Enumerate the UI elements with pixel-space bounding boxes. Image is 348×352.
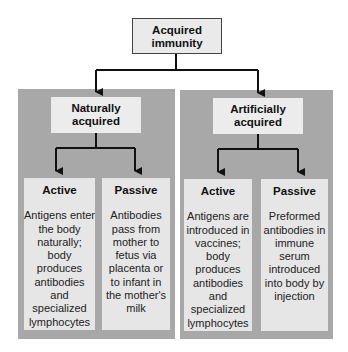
artificially-acquired-box: Artificially acquired: [213, 98, 303, 134]
text-line: milk: [126, 302, 146, 314]
text-line: vaccines;: [195, 237, 241, 249]
naturally-acquired-box: Naturally acquired: [51, 97, 141, 133]
root-label-line1: Acquired: [152, 24, 202, 36]
text-line: injection: [274, 290, 314, 302]
text-line: the body: [38, 223, 80, 235]
text-line: antibodies: [193, 277, 243, 289]
text-line: into body by: [265, 277, 324, 289]
artificially-label-line2: acquired: [234, 116, 282, 128]
text-line: pass from: [112, 223, 160, 235]
text-line: and: [50, 289, 68, 301]
text-line: antibodies in: [264, 224, 326, 236]
artificial-active-box: Active Antigens are introduced in vaccin…: [184, 179, 252, 331]
artificial-passive-title: Passive: [261, 185, 328, 198]
artificial-active-title: Active: [184, 185, 252, 198]
text-line: Antigens enter: [24, 209, 95, 221]
text-line: introduced: [269, 263, 320, 275]
natural-active-box: Active Antigens enter the body naturally…: [24, 178, 95, 330]
text-line: mother to: [113, 236, 159, 248]
text-line: lymphocytes: [29, 316, 90, 328]
text-line: body: [48, 249, 72, 261]
text-line: naturally;: [37, 236, 82, 248]
text-line: immune: [275, 237, 314, 249]
artificial-passive-box: Passive Preformed antibodies in immune s…: [261, 179, 328, 331]
text-line: body: [206, 250, 230, 262]
text-line: placenta or: [109, 262, 163, 274]
text-line: Preformed: [269, 210, 320, 222]
text-line: and: [209, 290, 227, 302]
text-line: the mother's: [106, 289, 166, 301]
text-line: serum: [279, 250, 310, 262]
text-line: specialized: [32, 302, 86, 314]
text-line: lymphocytes: [187, 317, 248, 329]
text-line: Antibodies: [110, 209, 161, 221]
naturally-label-line2: acquired: [72, 115, 120, 127]
acquired-immunity-box: Acquired immunity: [132, 18, 222, 54]
text-line: specialized: [191, 303, 245, 315]
natural-passive-title: Passive: [102, 184, 170, 197]
root-label-line2: immunity: [151, 37, 202, 49]
naturally-label-line1: Naturally: [71, 102, 120, 114]
text-line: fetus via: [116, 249, 157, 261]
text-line: introduced in: [187, 224, 250, 236]
artificially-label-line1: Artificially: [230, 103, 286, 115]
text-line: antibodies: [34, 276, 84, 288]
text-line: Antigens are: [187, 210, 249, 222]
text-line: produces: [195, 263, 240, 275]
natural-passive-box: Passive Antibodies pass from mother to f…: [102, 178, 170, 330]
text-line: to infant in: [111, 276, 162, 288]
natural-active-title: Active: [24, 184, 95, 197]
text-line: produces: [37, 262, 82, 274]
